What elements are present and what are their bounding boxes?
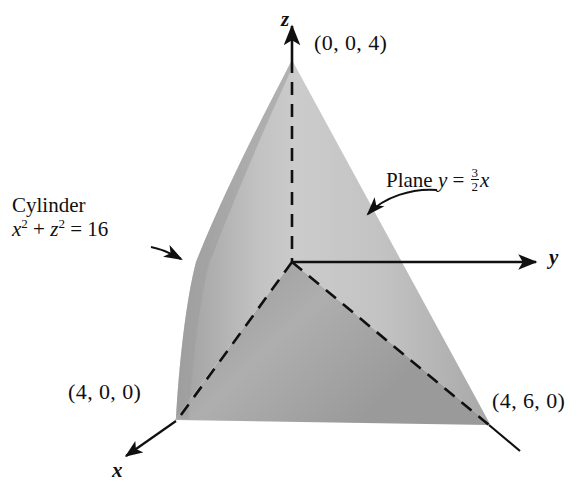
y-axis-label: y [549, 246, 558, 268]
cylinder-equation: x2 + z2 = 16 [12, 218, 108, 240]
cylinder-annotation: Cylinder x2 + z2 = 16 [12, 194, 108, 240]
plane-eq-y: y [438, 168, 447, 192]
point-label-4-6-0: (4, 6, 0) [492, 389, 565, 412]
plane-eq-equals: = [452, 168, 464, 192]
plane-eq-x: x [480, 168, 489, 192]
cylinder-eq-x-exponent: 2 [21, 216, 28, 231]
cylinder-eq-x-term: x [12, 217, 21, 241]
cylinder-leader-arrow [151, 247, 181, 259]
solid-region-surface [175, 60, 490, 425]
x-axis-label: x [112, 459, 123, 481]
plane-annotation-prefix: Plane [386, 168, 433, 192]
point-460-tail-line [489, 425, 520, 451]
figure-canvas: z y x (0, 0, 4) (4, 0, 0) (4, 6, 0) Cyli… [0, 0, 587, 501]
cylinder-eq-equals: = [70, 217, 82, 241]
cylinder-eq-value: 16 [87, 217, 108, 241]
cylinder-eq-z-exponent: 2 [58, 216, 65, 231]
plane-eq-fraction: 32 [471, 166, 480, 194]
plane-annotation: Plane y = 32x [386, 166, 489, 194]
point-label-4-0-0: (4, 0, 0) [68, 380, 141, 403]
point-label-0-0-4: (0, 0, 4) [314, 31, 387, 54]
cylinder-annotation-title: Cylinder [12, 193, 86, 217]
diagram-graphics [0, 0, 587, 501]
plane-eq-denominator: 2 [471, 180, 480, 193]
x-axis-solid [126, 421, 176, 456]
z-axis-label: z [281, 8, 289, 30]
plane-eq-numerator: 3 [471, 166, 480, 180]
cylinder-eq-plus: + [33, 217, 45, 241]
